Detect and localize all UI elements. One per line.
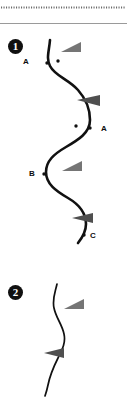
arrowhead-6 (44, 348, 64, 358)
figure-vector-layer (0, 0, 127, 397)
point-label-b: B (29, 169, 35, 178)
arrowhead-1 (61, 42, 81, 52)
panel-2-group (44, 284, 84, 396)
panel-1-group (42, 40, 100, 243)
marker-dot-a2-right (88, 126, 91, 129)
point-label-c: C (90, 231, 96, 240)
panel-badge-1: 1 (8, 39, 23, 54)
arrowhead-3 (62, 161, 82, 171)
panel-badge-2: 2 (8, 285, 23, 300)
point-label-a-middle: A (101, 124, 107, 133)
arrowhead-2 (77, 95, 100, 106)
figure-canvas: 1 2 A A B C (0, 0, 127, 397)
marker-dot-c (82, 233, 85, 236)
marker-dot-a2-left (74, 124, 77, 127)
marker-dot-a1-right (56, 59, 59, 62)
sinuous-curve-2 (45, 284, 65, 396)
point-label-a-upper: A (23, 57, 29, 66)
marker-dot-a1-left (45, 61, 48, 64)
arrowhead-5 (64, 299, 84, 309)
marker-dot-b (42, 172, 45, 175)
arrowhead-4 (72, 213, 93, 223)
sinuous-curve-1 (46, 40, 90, 243)
